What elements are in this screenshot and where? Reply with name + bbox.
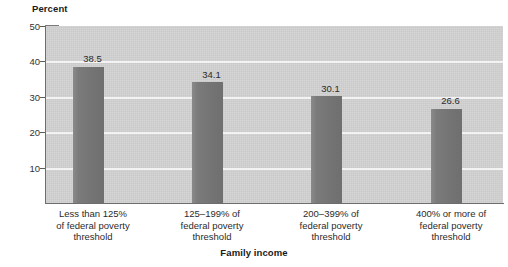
category-label-400-or-more: 400% or more of federal poverty threshol… <box>386 208 508 243</box>
category-label-line-1: 400% or more of <box>386 208 508 220</box>
x-axis-title: Family income <box>0 247 508 258</box>
bar-200-399 <box>311 96 342 203</box>
y-tick-label-10: 10 <box>6 163 40 174</box>
category-label-less-than-125: Less than 125% of federal poverty thresh… <box>28 208 158 243</box>
category-label-line-1: Less than 125% <box>28 208 158 220</box>
bar-value-200-399: 30.1 <box>296 83 365 94</box>
bar-less-than-125 <box>73 67 104 203</box>
bar-125-199 <box>192 82 223 203</box>
y-tick-label-20: 20 <box>6 127 40 138</box>
category-label-line-3: threshold <box>147 231 277 243</box>
category-label-line-3: threshold <box>28 231 158 243</box>
bar-value-less-than-125: 38.5 <box>58 53 127 64</box>
y-tick-label-50: 50 <box>6 21 40 32</box>
category-label-line-1: 125–199% of <box>147 208 277 220</box>
y-tick-label-40: 40 <box>6 56 40 67</box>
category-label-200-399: 200–399% of federal poverty threshold <box>266 208 396 243</box>
bar-chart: Percent 50 40 30 20 10 38.5 34.1 30.1 26… <box>0 0 508 267</box>
bar-400-or-more <box>431 109 462 203</box>
y-tick-label-30: 30 <box>6 92 40 103</box>
category-label-125-199: 125–199% of federal poverty threshold <box>147 208 277 243</box>
y-axis-title: Percent <box>32 3 68 14</box>
category-label-line-2: federal poverty <box>147 220 277 232</box>
category-label-line-1: 200–399% of <box>266 208 396 220</box>
bar-value-400-or-more: 26.6 <box>416 95 485 106</box>
category-label-line-2: federal poverty <box>386 220 508 232</box>
category-label-line-2: federal poverty <box>266 220 396 232</box>
category-label-line-3: threshold <box>386 231 508 243</box>
bar-value-125-199: 34.1 <box>177 69 246 80</box>
category-label-line-3: threshold <box>266 231 396 243</box>
category-label-line-2: of federal poverty <box>28 220 158 232</box>
x-axis-line <box>45 203 504 204</box>
